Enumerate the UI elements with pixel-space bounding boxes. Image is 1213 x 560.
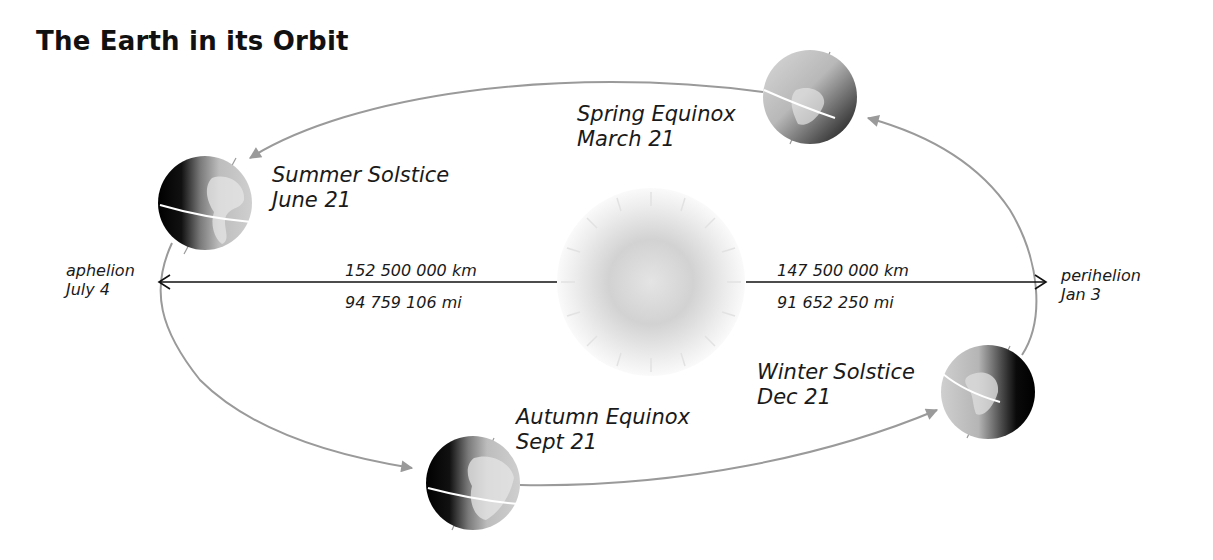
season-date: Dec 21: [757, 385, 915, 410]
season-date: June 21: [272, 188, 449, 213]
season-name: Winter Solstice: [757, 360, 915, 385]
perihelion-distance-mi: 91 652 250 mi: [777, 293, 894, 312]
season-name: Summer Solstice: [272, 163, 449, 188]
perihelion-date: Jan 3: [1061, 285, 1141, 304]
summer-solstice-label: Summer Solstice June 21: [272, 163, 449, 213]
aphelion-date: July 4: [66, 280, 135, 299]
earth-globe-icon: [941, 345, 1035, 439]
season-date: March 21: [577, 127, 736, 152]
aphelion-distance-mi: 94 759 106 mi: [345, 293, 462, 312]
season-name: Autumn Equinox: [516, 405, 690, 430]
perihelion-distance-km: 147 500 000 km: [777, 261, 909, 280]
aphelion-label: aphelion July 4: [66, 261, 135, 299]
orbit-diagram: [0, 0, 1213, 560]
sun-icon: [557, 188, 745, 376]
earth-globe-icon: [763, 50, 857, 144]
aphelion-distance-km: 152 500 000 km: [345, 261, 477, 280]
autumn-equinox-label: Autumn Equinox Sept 21: [516, 405, 690, 455]
winter-solstice-label: Winter Solstice Dec 21: [757, 360, 915, 410]
season-name: Spring Equinox: [577, 102, 736, 127]
earth-globe-icon: [426, 436, 520, 530]
earth-globe-icon: [158, 156, 252, 254]
perihelion-label: perihelion Jan 3: [1061, 266, 1141, 304]
season-date: Sept 21: [516, 430, 690, 455]
perihelion-title: perihelion: [1061, 266, 1141, 285]
spring-equinox-label: Spring Equinox March 21: [577, 102, 736, 152]
aphelion-title: aphelion: [66, 261, 135, 280]
